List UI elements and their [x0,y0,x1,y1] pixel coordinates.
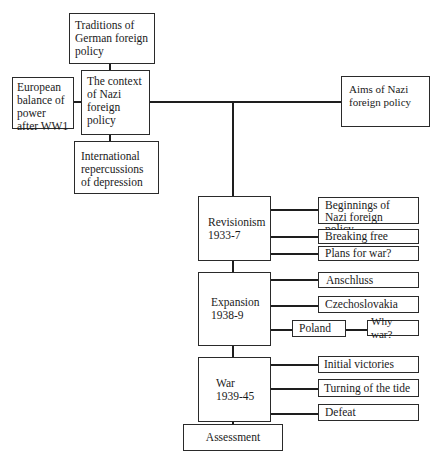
connector-war-topic-3 [270,413,319,415]
connector-expansion-topic-2 [270,305,319,307]
war-box: War 1939-45 [198,357,271,422]
topic-turning-tide-label: Turning of the tide [324,382,410,395]
topic-initial-victories-label: Initial victories [324,358,394,371]
topic-initial-victories: Initial victories [318,356,419,373]
assessment-box: Assessment [183,424,283,451]
topic-czechoslovakia-label: Czechoslovakia [325,298,398,311]
expansion-years: 1938-9 [211,309,260,322]
connector-war-topic-1 [270,364,319,366]
revisionism-years: 1933-7 [208,229,266,242]
topic-breaking-free-label: Breaking free [325,230,388,243]
connector-poland-whywar [345,329,367,331]
connector-expansion-topic-1 [270,279,319,281]
war-title: War [216,377,254,390]
topic-why-war: Why war? [367,320,419,336]
international-label: International repercussions of depressio… [81,150,144,188]
topic-breaking-free: Breaking free [318,229,419,244]
traditions-box: Traditions of German foreign policy [69,13,155,64]
topic-poland: Poland [292,320,346,337]
revisionism-box: Revisionism 1933-7 [198,196,271,261]
aims-box: Aims of Nazi foreign policy [341,76,430,127]
expansion-title: Expansion [211,296,260,309]
topic-anschluss-label: Anschluss [326,274,373,287]
topic-beginnings: Beginnings of Nazi foreign policy [318,197,419,224]
aims-label: Aims of Nazi foreign policy [349,83,411,108]
connector-war-topic-2 [270,388,319,390]
connector-revisionism-topic-2 [270,236,319,238]
topic-why-war-label: Why war? [371,315,415,341]
context-box: The context of Nazi foreign policy [81,70,150,135]
topic-czechoslovakia: Czechoslovakia [318,296,419,313]
topic-defeat-label: Defeat [325,406,356,419]
revisionism-title: Revisionism [208,216,266,229]
topic-defeat: Defeat [318,404,419,421]
international-box: International repercussions of depressio… [74,141,159,194]
topic-poland-label: Poland [299,322,331,335]
topic-anschluss: Anschluss [318,272,419,288]
expansion-box: Expansion 1938-9 [198,272,271,346]
connector-revisionism-topic-3 [270,253,319,255]
topic-turning-tide: Turning of the tide [318,379,419,397]
traditions-label: Traditions of German foreign policy [75,19,148,57]
trunk-line [232,101,234,197]
topic-plans-for-war-label: Plans for war? [325,247,391,260]
connector-expansion-topic-3 [270,329,292,331]
war-years: 1939-45 [216,390,254,403]
european-balance-box: European balance of power after WW1 [12,77,74,129]
european-balance-label: European balance of power after WW1 [17,81,68,132]
context-label: The context of Nazi foreign policy [87,75,142,126]
topic-plans-for-war: Plans for war? [318,246,419,261]
connector-context-aims [149,101,342,103]
assessment-label: Assessment [206,431,260,444]
connector-revisionism-topic-1 [270,209,319,211]
